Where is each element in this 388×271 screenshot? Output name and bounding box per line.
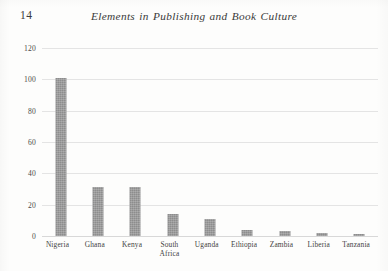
- bar-slot: [341, 48, 378, 236]
- bar-slot: [303, 48, 340, 236]
- gridline-0: [42, 236, 378, 237]
- bar-ethiopia: [242, 230, 253, 236]
- y-axis-tick-label: 40: [6, 169, 36, 178]
- x-axis-label: Liberia: [299, 240, 339, 249]
- x-axis-labels: NigeriaGhanaKenyaSouthAfricaUgandaEthiop…: [42, 240, 378, 270]
- y-axis-tick-label: 80: [6, 107, 36, 116]
- x-axis-label-line: Ethiopia: [224, 240, 264, 249]
- x-axis-label: Ethiopia: [224, 240, 264, 249]
- bar-slot: [154, 48, 191, 236]
- running-head: 14 Elements in Publishing and Book Cultu…: [0, 9, 388, 29]
- y-axis-tick-label: 120: [6, 44, 36, 53]
- bar-slot: [191, 48, 228, 236]
- bar-slot: [229, 48, 266, 236]
- bar-tanzania: [354, 234, 365, 236]
- y-axis-tick-label: 20: [6, 201, 36, 210]
- bar-nigeria: [55, 78, 66, 236]
- x-axis-label-line: Zambia: [261, 240, 301, 249]
- y-axis-tick-label: 100: [6, 75, 36, 84]
- bar-slot: [117, 48, 154, 236]
- running-head-title: Elements in Publishing and Book Culture: [0, 10, 388, 22]
- bar-slot: [266, 48, 303, 236]
- x-axis-label: Ghana: [75, 240, 115, 249]
- x-axis-label-line: South: [149, 240, 189, 249]
- bar-zambia: [279, 231, 290, 236]
- x-axis-label-line: Ghana: [75, 240, 115, 249]
- bar-chart: 020406080100120 NigeriaGhanaKenyaSouthAf…: [0, 40, 388, 271]
- x-axis-label: SouthAfrica: [149, 240, 189, 258]
- x-axis-label-line: Africa: [149, 249, 189, 258]
- bar-slot: [42, 48, 79, 236]
- bar-uganda: [204, 219, 215, 236]
- x-axis-label: Uganda: [187, 240, 227, 249]
- y-axis-tick-label: 60: [6, 138, 36, 147]
- x-axis-label-line: Tanzania: [336, 240, 376, 249]
- bar-south-africa: [167, 214, 178, 236]
- x-axis-label: Nigeria: [37, 240, 77, 249]
- bar-kenya: [130, 187, 141, 236]
- x-axis-label-line: Kenya: [112, 240, 152, 249]
- x-axis-label-line: Uganda: [187, 240, 227, 249]
- x-axis-label-line: Liberia: [299, 240, 339, 249]
- bar-series: [42, 48, 378, 236]
- x-axis-label: Kenya: [112, 240, 152, 249]
- bar-ghana: [92, 187, 103, 236]
- bar-slot: [79, 48, 116, 236]
- x-axis-label: Zambia: [261, 240, 301, 249]
- y-axis-tick-label: 0: [6, 232, 36, 241]
- x-axis-label: Tanzania: [336, 240, 376, 249]
- book-page: 14 Elements in Publishing and Book Cultu…: [0, 0, 388, 271]
- bar-liberia: [316, 233, 327, 236]
- x-axis-label-line: Nigeria: [37, 240, 77, 249]
